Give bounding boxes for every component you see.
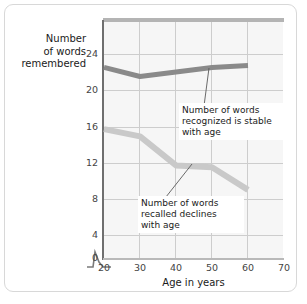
- annotation-recognized-line-3: with age: [182, 127, 286, 138]
- y-axis-title-line-3: remembered: [14, 58, 86, 71]
- x-tick-20: 20: [89, 262, 119, 273]
- y-tick-20: 20: [68, 85, 98, 95]
- series-line-recognized: [104, 66, 248, 77]
- annotation-recognized-line-2: recognized is stable: [182, 116, 286, 127]
- y-tick-16: 16: [68, 122, 98, 132]
- annotation-recognized-line-1: Number of words: [182, 105, 286, 116]
- x-axis-title: Age in years: [103, 277, 284, 288]
- annotation-recognized: Number of words recognized is stable wit…: [179, 103, 289, 140]
- x-tick-70: 70: [269, 262, 299, 273]
- leader-line-recognized: [196, 66, 218, 108]
- annotation-recalled-line-2: recalled declines: [141, 209, 241, 220]
- y-tick-12: 12: [68, 158, 98, 168]
- annotation-recalled-line-3: with age: [141, 220, 241, 231]
- y-axis-title: Number of words remembered: [14, 33, 86, 71]
- y-tick-8: 8: [68, 194, 98, 204]
- annotation-recalled: Number of words recalled declines with a…: [138, 196, 244, 233]
- x-tick-50: 50: [197, 262, 227, 273]
- x-tick-60: 60: [233, 262, 263, 273]
- x-tick-40: 40: [161, 262, 191, 273]
- x-tick-30: 30: [125, 262, 155, 273]
- y-axis-title-line-1: Number: [14, 33, 86, 46]
- y-tick-4: 4: [68, 230, 98, 240]
- y-axis-title-line-2: of words: [14, 46, 86, 59]
- x-axis-line: [103, 258, 284, 260]
- figure: 24 20 16 12 8 4 0 20 30 40 50 60 70 Numb…: [0, 0, 307, 304]
- annotation-recalled-line-1: Number of words: [141, 198, 241, 209]
